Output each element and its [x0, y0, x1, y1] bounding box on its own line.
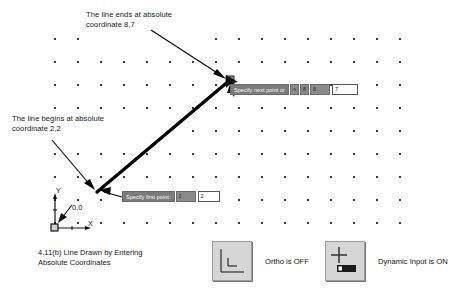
dynamic-input-crosshair-icon	[326, 242, 364, 280]
figure-caption: 4.11(b) Line Drawn by Entering Absolute …	[38, 248, 198, 269]
tooltip-prompt-first-point: Specify first point:	[122, 191, 175, 202]
ucs-x-axis-label: X	[88, 219, 93, 228]
annotation-line-begin: The line begins at absolute coordinate 2…	[12, 114, 148, 134]
tooltip-chip-next-1: n	[290, 84, 299, 95]
ortho-status-label: Ortho is OFF	[265, 257, 309, 266]
tooltip-chip-next-3: 8	[310, 84, 330, 95]
tooltip-chip-first-1: 2	[176, 191, 196, 202]
dynamic-input-tooltip-first-point[interactable]: Specify first point: 2 2	[122, 191, 220, 202]
ortho-right-angle-icon	[213, 242, 251, 280]
ortho-toggle-button[interactable]	[212, 241, 252, 281]
dynamic-input-tooltip-next-point[interactable]: Specify next point or n 8 8 7	[230, 84, 358, 95]
tooltip-prompt-next-point: Specify next point or	[230, 84, 289, 95]
drawn-line	[97, 80, 230, 192]
dynamic-input-toggle-button[interactable]	[325, 241, 365, 281]
ortho-status-group: Ortho is OFF	[212, 241, 309, 281]
ucs-icon	[51, 193, 91, 231]
figure-canvas: The line ends at absolute coordinate 8,7…	[0, 0, 464, 299]
ucs-origin-label: 0,0	[72, 203, 82, 212]
tooltip-chip-next-2: 8	[300, 84, 309, 95]
tooltip-input-next-point[interactable]: 7	[332, 84, 358, 95]
tooltip-input-first-point[interactable]: 2	[198, 191, 220, 202]
dynamic-input-status-group: Dynamic Input is ON	[325, 241, 448, 281]
leader-arrow-begin	[52, 140, 95, 190]
annotation-line-end: The line ends at absolute coordinate 8,7	[86, 10, 216, 30]
dynamic-input-status-label: Dynamic Input is ON	[378, 257, 448, 266]
leader-arrow-end	[151, 30, 226, 79]
ucs-y-axis-label: Y	[56, 186, 61, 195]
